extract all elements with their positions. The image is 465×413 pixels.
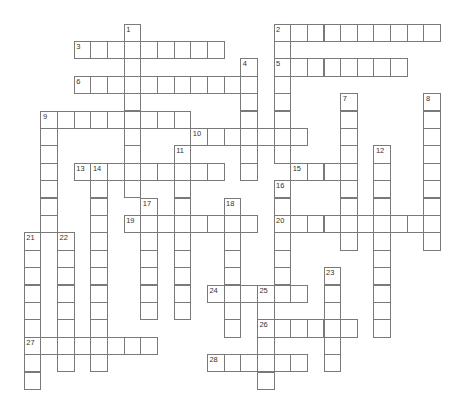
crossword-cell[interactable] xyxy=(274,41,292,59)
crossword-cell[interactable] xyxy=(324,163,342,181)
crossword-cell[interactable] xyxy=(274,128,292,146)
crossword-cell[interactable] xyxy=(107,163,125,181)
crossword-cell[interactable] xyxy=(57,302,75,320)
crossword-cell[interactable] xyxy=(274,250,292,268)
crossword-cell[interactable]: 15 xyxy=(290,163,308,181)
crossword-cell[interactable] xyxy=(423,163,441,181)
crossword-cell[interactable]: 20 xyxy=(274,215,292,233)
crossword-cell[interactable] xyxy=(90,337,108,355)
crossword-cell[interactable] xyxy=(390,24,408,42)
crossword-cell[interactable] xyxy=(373,285,391,303)
crossword-cell[interactable] xyxy=(324,58,342,76)
crossword-cell[interactable] xyxy=(423,145,441,163)
crossword-cell[interactable] xyxy=(373,250,391,268)
crossword-cell[interactable] xyxy=(140,111,158,129)
crossword-cell[interactable] xyxy=(140,232,158,250)
crossword-cell[interactable] xyxy=(40,337,58,355)
crossword-cell[interactable] xyxy=(174,215,192,233)
crossword-cell[interactable] xyxy=(324,319,342,337)
crossword-cell[interactable] xyxy=(140,163,158,181)
crossword-cell[interactable] xyxy=(124,145,142,163)
crossword-cell[interactable] xyxy=(140,41,158,59)
crossword-cell[interactable] xyxy=(90,41,108,59)
crossword-cell[interactable] xyxy=(90,180,108,198)
crossword-cell[interactable] xyxy=(224,319,242,337)
crossword-cell[interactable]: 16 xyxy=(274,180,292,198)
crossword-cell[interactable] xyxy=(57,337,75,355)
crossword-cell[interactable] xyxy=(340,58,358,76)
crossword-cell[interactable] xyxy=(174,232,192,250)
crossword-cell[interactable] xyxy=(157,76,175,94)
crossword-cell[interactable] xyxy=(240,93,258,111)
crossword-cell[interactable] xyxy=(373,267,391,285)
crossword-cell[interactable]: 21 xyxy=(24,232,42,250)
crossword-cell[interactable]: 6 xyxy=(74,76,92,94)
crossword-cell[interactable] xyxy=(90,215,108,233)
crossword-cell[interactable] xyxy=(274,76,292,94)
crossword-cell[interactable] xyxy=(140,215,158,233)
crossword-cell[interactable] xyxy=(340,180,358,198)
crossword-cell[interactable] xyxy=(407,215,425,233)
crossword-cell[interactable] xyxy=(307,58,325,76)
crossword-cell[interactable] xyxy=(90,232,108,250)
crossword-cell[interactable] xyxy=(124,180,142,198)
crossword-cell[interactable] xyxy=(107,76,125,94)
crossword-cell[interactable] xyxy=(124,128,142,146)
crossword-cell[interactable] xyxy=(324,337,342,355)
crossword-cell[interactable] xyxy=(207,41,225,59)
crossword-cell[interactable] xyxy=(90,250,108,268)
crossword-cell[interactable] xyxy=(257,302,275,320)
crossword-cell[interactable]: 8 xyxy=(423,93,441,111)
crossword-cell[interactable] xyxy=(24,319,42,337)
crossword-cell[interactable] xyxy=(340,232,358,250)
crossword-cell[interactable] xyxy=(274,354,292,372)
crossword-cell[interactable]: 7 xyxy=(340,93,358,111)
crossword-cell[interactable] xyxy=(190,215,208,233)
crossword-cell[interactable] xyxy=(207,163,225,181)
crossword-cell[interactable] xyxy=(174,111,192,129)
crossword-cell[interactable] xyxy=(90,302,108,320)
crossword-cell[interactable] xyxy=(57,319,75,337)
crossword-cell[interactable] xyxy=(124,337,142,355)
crossword-cell[interactable] xyxy=(340,128,358,146)
crossword-cell[interactable] xyxy=(290,24,308,42)
crossword-cell[interactable] xyxy=(407,24,425,42)
crossword-cell[interactable]: 27 xyxy=(24,337,42,355)
crossword-cell[interactable] xyxy=(124,76,142,94)
crossword-cell[interactable] xyxy=(174,41,192,59)
crossword-cell[interactable] xyxy=(357,215,375,233)
crossword-cell[interactable] xyxy=(207,215,225,233)
crossword-cell[interactable] xyxy=(40,163,58,181)
crossword-cell[interactable] xyxy=(90,76,108,94)
crossword-cell[interactable] xyxy=(107,41,125,59)
crossword-cell[interactable]: 11 xyxy=(174,145,192,163)
crossword-cell[interactable] xyxy=(124,111,142,129)
crossword-cell[interactable] xyxy=(324,302,342,320)
crossword-cell[interactable] xyxy=(224,215,242,233)
crossword-cell[interactable] xyxy=(107,337,125,355)
crossword-cell[interactable] xyxy=(124,58,142,76)
crossword-cell[interactable] xyxy=(240,128,258,146)
crossword-cell[interactable] xyxy=(157,41,175,59)
crossword-cell[interactable] xyxy=(274,111,292,129)
crossword-cell[interactable] xyxy=(174,198,192,216)
crossword-cell[interactable] xyxy=(107,111,125,129)
crossword-cell[interactable] xyxy=(340,163,358,181)
crossword-cell[interactable] xyxy=(157,215,175,233)
crossword-cell[interactable] xyxy=(274,285,292,303)
crossword-cell[interactable]: 5 xyxy=(274,58,292,76)
crossword-cell[interactable] xyxy=(124,41,142,59)
crossword-cell[interactable]: 23 xyxy=(324,267,342,285)
crossword-cell[interactable] xyxy=(373,58,391,76)
crossword-cell[interactable]: 9 xyxy=(40,111,58,129)
crossword-cell[interactable] xyxy=(274,319,292,337)
crossword-cell[interactable] xyxy=(40,215,58,233)
crossword-cell[interactable] xyxy=(174,180,192,198)
crossword-cell[interactable] xyxy=(307,24,325,42)
crossword-cell[interactable] xyxy=(274,145,292,163)
crossword-cell[interactable] xyxy=(24,372,42,390)
crossword-cell[interactable] xyxy=(124,163,142,181)
crossword-cell[interactable] xyxy=(373,24,391,42)
crossword-cell[interactable] xyxy=(224,128,242,146)
crossword-cell[interactable] xyxy=(207,128,225,146)
